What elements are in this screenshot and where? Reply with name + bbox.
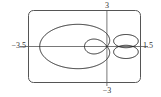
polar-plot: 3 −3 −3.5 1.5 <box>0 0 161 97</box>
y-max-label: 3 <box>105 1 109 10</box>
x-min-label: −3.5 <box>11 41 26 50</box>
y-min-label: −3 <box>103 86 112 95</box>
x-max-label: 1.5 <box>143 41 153 50</box>
